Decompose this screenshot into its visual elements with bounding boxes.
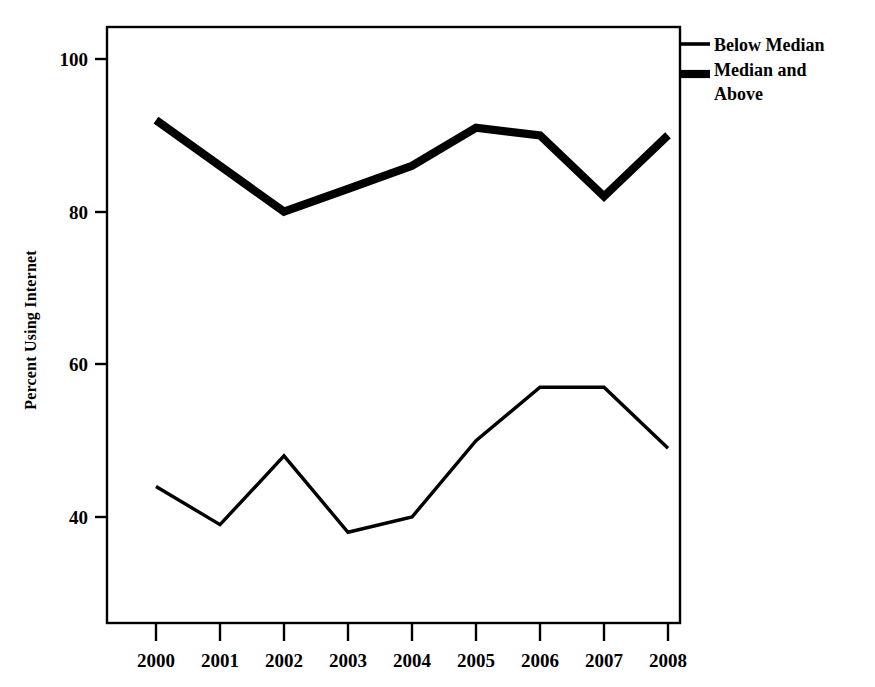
y-axis-title: Percent Using Internet	[22, 250, 40, 410]
legend-label-median-and-above-line1: Median and	[714, 60, 807, 80]
x-tick-label-2008: 2008	[649, 650, 687, 671]
x-axis-ticks	[156, 623, 668, 641]
x-tick-label-2003: 2003	[329, 650, 367, 671]
line-chart: 100 80 60 40 Percent Using Internet 2000…	[0, 0, 875, 687]
x-tick-label-2007: 2007	[585, 650, 624, 671]
x-tick-label-2002: 2002	[265, 650, 303, 671]
legend-label-median-and-above-line2: Above	[714, 84, 763, 104]
x-tick-label-2004: 2004	[393, 650, 432, 671]
y-tick-label-40: 40	[69, 507, 88, 528]
x-tick-label-2006: 2006	[521, 650, 559, 671]
y-tick-label-100: 100	[60, 49, 89, 70]
x-tick-label-2005: 2005	[457, 650, 495, 671]
y-tick-label-60: 60	[69, 354, 88, 375]
y-axis-ticks	[95, 59, 107, 517]
chart-legend: Below Median Median and Above	[681, 35, 825, 104]
plot-frame	[107, 27, 680, 623]
legend-label-below-median: Below Median	[714, 35, 825, 55]
x-tick-label-2000: 2000	[137, 650, 175, 671]
chart-figure: 100 80 60 40 Percent Using Internet 2000…	[0, 0, 875, 687]
x-tick-label-2001: 2001	[201, 650, 239, 671]
y-tick-label-80: 80	[69, 202, 88, 223]
